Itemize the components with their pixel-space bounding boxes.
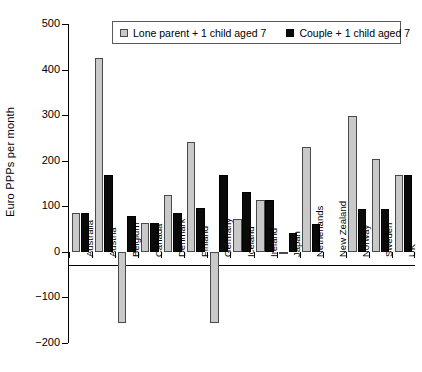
legend-swatch-gray-icon xyxy=(120,29,128,37)
y-tick-label-neg200: −200 xyxy=(14,337,60,348)
x-label-germany: Germany xyxy=(223,218,233,257)
bar-austria-series-1 xyxy=(95,58,104,252)
y-tick-label-300: 300 xyxy=(14,109,60,120)
bar-uk-series-2 xyxy=(404,175,413,252)
x-label-norway: Norway xyxy=(361,225,371,257)
bar-netherlands-series-1 xyxy=(302,147,311,251)
bar-denmark-series-1 xyxy=(164,195,173,252)
x-label-belgium: Belgium xyxy=(131,223,141,257)
y-tick-0 xyxy=(62,252,68,253)
x-label-canada: Canada xyxy=(154,224,164,257)
bar-germany-series-1 xyxy=(210,252,219,324)
bar-norway-series-1 xyxy=(348,116,357,252)
y-tick-neg100 xyxy=(62,297,68,298)
x-label-iceland: Iceland xyxy=(246,226,256,257)
y-tick-label-neg100: −100 xyxy=(14,291,60,302)
y-tick-200 xyxy=(62,161,68,162)
legend-item-couple: Couple + 1 child aged 7 xyxy=(286,27,410,39)
legend-label-lone-parent: Lone parent + 1 child aged 7 xyxy=(133,27,266,39)
y-tick-label-500: 500 xyxy=(14,18,60,29)
y-tick-neg200 xyxy=(62,343,68,344)
y-tick-500 xyxy=(62,24,68,25)
y-tick-label-100: 100 xyxy=(14,200,60,211)
y-tick-100 xyxy=(62,206,68,207)
bar-japan-series-1 xyxy=(279,252,288,254)
y-tick-label-200: 200 xyxy=(14,155,60,166)
legend-item-lone-parent: Lone parent + 1 child aged 7 xyxy=(120,27,266,39)
bar-finland-series-1 xyxy=(187,142,196,252)
bar-sweden-series-1 xyxy=(372,159,381,252)
y-tick-400 xyxy=(62,70,68,71)
bar-ireland-series-1 xyxy=(256,200,265,251)
x-label-ireland: Ireland xyxy=(269,228,279,257)
x-label-sweden: Sweden xyxy=(384,223,394,257)
bar-chart: Euro PPPs per month 5004003002001000−100… xyxy=(0,0,422,372)
x-label-uk: UK xyxy=(407,244,417,257)
x-label-austria: Austria xyxy=(108,227,118,257)
x-label-finland: Finland xyxy=(200,226,210,257)
x-label-australia: Australia xyxy=(85,220,95,257)
legend-swatch-black-icon xyxy=(286,29,294,37)
bar-iceland-series-1 xyxy=(233,219,242,252)
x-label-new-zealand: New Zealand xyxy=(338,201,348,257)
plot-area xyxy=(69,24,415,343)
y-tick-label-400: 400 xyxy=(14,64,60,75)
x-label-japan: Japan xyxy=(292,231,302,257)
x-tick-0 xyxy=(69,252,70,258)
legend-label-couple: Couple + 1 child aged 7 xyxy=(299,27,410,39)
y-tick-label-0: 0 xyxy=(14,246,60,257)
y-tick-300 xyxy=(62,115,68,116)
bar-belgium-series-1 xyxy=(118,252,127,324)
x-label-netherlands: Netherlands xyxy=(315,206,325,257)
x-label-denmark: Denmark xyxy=(177,218,187,257)
bar-australia-series-1 xyxy=(72,213,81,252)
chart-legend: Lone parent + 1 child aged 7 Couple + 1 … xyxy=(112,21,401,44)
bar-canada-series-1 xyxy=(141,223,150,252)
bar-uk-series-1 xyxy=(395,175,404,252)
